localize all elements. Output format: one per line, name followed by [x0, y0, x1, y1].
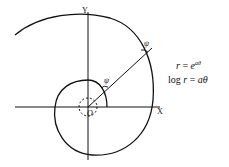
- psi-label-inner: ψ: [104, 76, 110, 85]
- eq1-equals: =: [180, 60, 191, 71]
- eq2-log: log: [168, 74, 183, 85]
- log-spiral-curve: [15, 14, 153, 155]
- equation-exponential: r = eaθ: [176, 60, 201, 71]
- angle-mark-outer: [141, 50, 148, 52]
- eq2-equals: =: [187, 74, 198, 85]
- psi-label-outer: ψ: [144, 39, 150, 48]
- equation-logarithmic: log r = aθ: [168, 74, 208, 85]
- radius-vector: [88, 48, 152, 107]
- origin-label: O: [87, 109, 93, 118]
- eq1-exponent: aθ: [195, 60, 201, 66]
- y-axis-label: Y: [82, 6, 88, 15]
- x-axis-label: X: [157, 107, 163, 116]
- eq2-rhs: aθ: [198, 74, 208, 85]
